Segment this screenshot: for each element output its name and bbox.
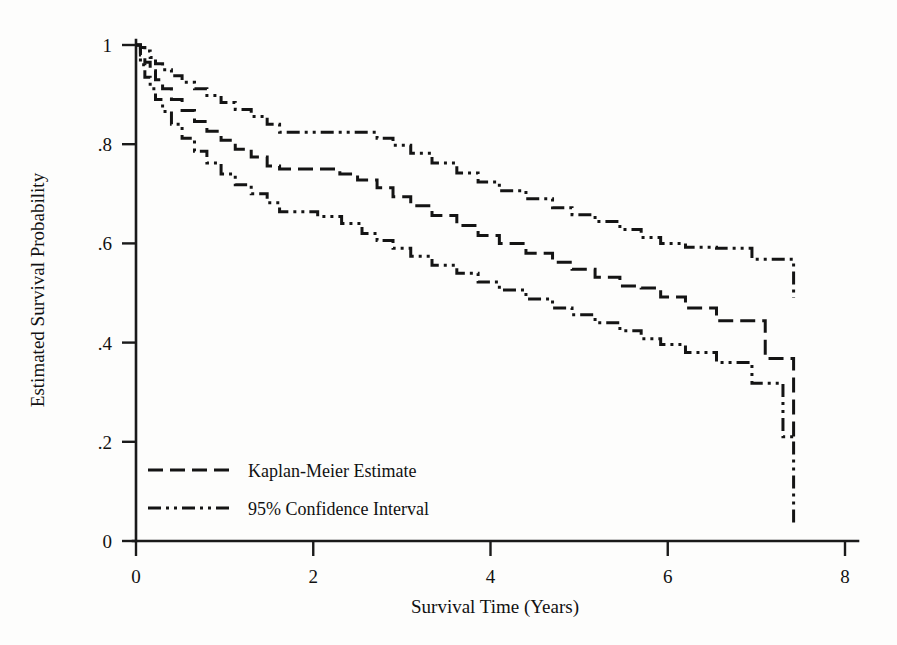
y-axis-ticks: 0.2.4.6.81 [98,35,136,552]
survival-curve [136,45,794,298]
chart-legend: Kaplan-Meier Estimate 95% Confidence Int… [148,461,429,519]
y-tick-label: .6 [98,233,112,254]
x-tick-label: 4 [486,566,496,587]
kaplan-meier-figure: 0.2.4.6.81 02468 Kaplan-Meier Estimate 9… [0,0,897,645]
legend-label-kaplan-meier: Kaplan-Meier Estimate [248,461,416,481]
x-tick-label: 2 [309,566,319,587]
x-tick-label: 6 [663,566,673,587]
x-tick-label: 8 [840,566,850,587]
y-tick-label: 0 [103,531,113,552]
survival-curve [136,45,794,442]
x-tick-label: 0 [131,566,141,587]
y-tick-label: .4 [98,333,113,354]
x-axis-title: Survival Time (Years) [411,596,579,618]
y-axis-title: Estimated Survival Probability [27,172,48,407]
y-tick-label: .8 [98,134,112,155]
x-axis-ticks: 02468 [131,541,850,587]
survival-curves [136,45,794,526]
legend-label-confidence-interval: 95% Confidence Interval [248,499,429,519]
y-tick-label: .2 [98,432,112,453]
survival-curve [136,45,794,526]
y-tick-label: 1 [103,35,113,56]
survival-plot: 0.2.4.6.81 02468 Kaplan-Meier Estimate 9… [0,0,897,645]
